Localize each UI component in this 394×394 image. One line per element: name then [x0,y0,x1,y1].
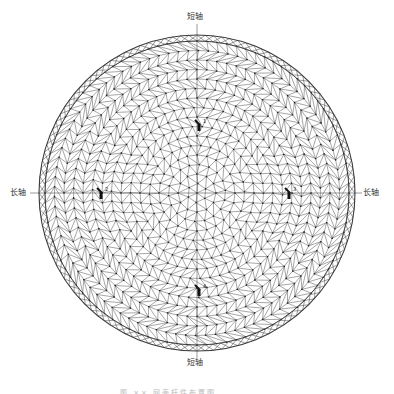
short-axis-label-top: 短轴 [187,12,203,22]
short-axis-label-bottom: 短轴 [187,358,203,368]
dome-diagram: 1234 [0,0,394,394]
marker-bottom: 4 [195,283,206,296]
long-axis-label-left: 长轴 [10,188,26,198]
svg-text:2: 2 [105,186,108,192]
figure-caption: 图 ×× 网壳杆件布置图 [120,387,290,394]
long-axis-label-right: 长轴 [363,188,379,198]
svg-text:1: 1 [203,118,206,124]
svg-text:4: 4 [203,283,206,289]
marker-top: 1 [195,118,206,131]
svg-text:3: 3 [293,186,296,192]
